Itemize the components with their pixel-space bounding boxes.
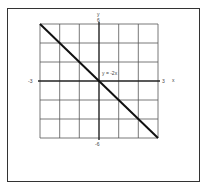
y-min-label: -6	[95, 141, 100, 147]
coordinate-plane: y 6 -6 -3 3 x y = -2x	[0, 0, 211, 192]
y-max-label: 6	[97, 17, 100, 23]
x-axis-label: x	[172, 77, 175, 83]
x-min-label: -3	[28, 78, 33, 84]
equation-label: y = -2x	[102, 70, 118, 76]
x-max-label: 3	[162, 78, 165, 84]
